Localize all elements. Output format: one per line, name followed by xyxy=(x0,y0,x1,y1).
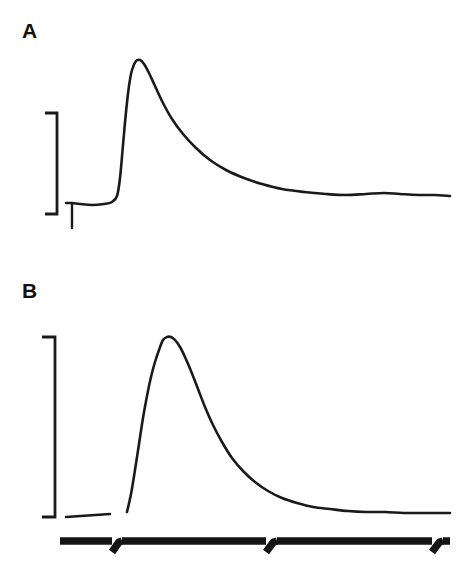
panel-b-label: B xyxy=(22,279,38,302)
figure-canvas: A B xyxy=(0,0,469,575)
figure-background xyxy=(0,0,469,575)
figure-container: A B xyxy=(0,0,469,575)
panel-a-label: A xyxy=(22,19,38,42)
